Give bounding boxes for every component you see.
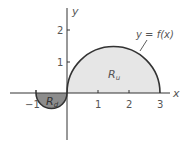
curve-label: y = f(x) xyxy=(135,29,174,40)
curve-label-leader xyxy=(140,40,147,51)
function-graph: −1 1 2 3 1 2 x y y = f(x) Ru Rd xyxy=(0,0,186,150)
x-tick-label: −1 xyxy=(25,99,40,110)
x-tick-label: 1 xyxy=(95,99,101,110)
x-tick-label: 3 xyxy=(157,99,163,110)
x-axis-label: x xyxy=(172,87,180,100)
y-axis-label: y xyxy=(71,5,79,18)
y-tick-label: 1 xyxy=(57,57,63,68)
y-tick-label: 2 xyxy=(57,25,63,36)
x-tick-label: 2 xyxy=(126,99,132,110)
